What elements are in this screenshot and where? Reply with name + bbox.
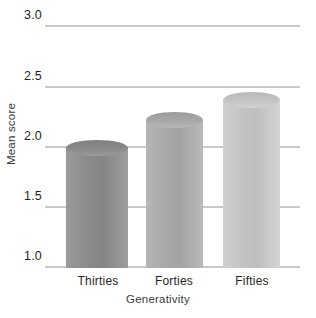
bar-forties-body <box>146 120 203 268</box>
y-tick-2-5: 2.5 <box>24 69 50 83</box>
bar-fifties-body <box>223 100 280 268</box>
x-tick-forties: Forties <box>138 274 210 288</box>
bar-thirties-body <box>66 148 128 268</box>
bar-thirties <box>66 140 128 268</box>
bar-forties-cap <box>146 112 203 128</box>
x-tick-fifties: Fifties <box>216 274 288 288</box>
x-tick-thirties: Thirties <box>60 274 136 288</box>
gridline-2-5 <box>45 86 300 88</box>
bar-thirties-cap <box>66 140 128 156</box>
y-tick-2-0: 2.0 <box>24 129 50 143</box>
bar-forties <box>146 112 203 268</box>
y-tick-3-0: 3.0 <box>24 8 50 22</box>
bar-fifties <box>223 92 280 268</box>
y-tick-1-5: 1.5 <box>24 189 50 203</box>
y-tick-1-0: 1.0 <box>24 249 50 263</box>
bar-chart: 3.0 2.5 2.0 1.5 1.0 Mean score Thirties … <box>0 0 316 318</box>
gridline-3-0 <box>45 25 300 27</box>
x-axis-title: Generativity <box>0 293 316 305</box>
plot-area: 3.0 2.5 2.0 1.5 1.0 <box>0 0 316 268</box>
bar-fifties-cap <box>223 92 280 108</box>
